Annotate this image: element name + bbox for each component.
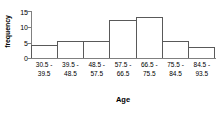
x-axis-tick-labels: 30.5 -39.539.5 -48.548.5 -57.557.5 -66.5… (31, 61, 215, 89)
histogram-bar (136, 17, 163, 58)
histogram-bar (57, 41, 84, 58)
x-axis-tick-label-line1: 30.5 - (31, 61, 57, 70)
y-axis-tick-label: 15 (14, 9, 28, 16)
y-axis-tick-label: 0 (14, 55, 28, 62)
x-axis-tick-label-line2: 57.5 (84, 70, 110, 79)
y-axis-title-text: frequency (4, 15, 11, 48)
x-axis-tick-label-line1: 48.5 - (84, 61, 110, 70)
x-axis-tick-label-line2: 75.5 (136, 70, 162, 79)
x-axis-tick-label: 84.5 -93.5 (189, 61, 215, 89)
histogram-chart: frequency 15 10 5 0 30.5 -39.539.5 -48.5… (0, 0, 222, 117)
x-axis-tick-label: 57.5 -66.5 (110, 61, 136, 89)
x-axis-tick-label-line1: 84.5 - (189, 61, 215, 70)
x-axis-tick-label: 75.5 -84.5 (162, 61, 188, 89)
x-axis-tick-label-line1: 66.5 - (136, 61, 162, 70)
y-axis-tick-label: 10 (14, 24, 28, 31)
x-axis-tick-label: 66.5 -75.5 (136, 61, 162, 89)
x-axis-tick-label-line2: 93.5 (189, 70, 215, 79)
x-axis-tick-label-line2: 48.5 (57, 70, 83, 79)
x-axis-tick-label: 30.5 -39.5 (31, 61, 57, 89)
histogram-bar (31, 45, 58, 58)
x-axis-tick-label-line1: 75.5 - (162, 61, 188, 70)
x-axis-line (31, 58, 216, 59)
histogram-bar (109, 20, 136, 58)
x-axis-tick-label-line1: 39.5 - (57, 61, 83, 70)
x-axis-title: Age (31, 95, 215, 104)
y-axis-tick-label: 5 (14, 40, 28, 47)
histogram-bar (162, 41, 189, 58)
histogram-bars (31, 11, 215, 58)
histogram-bar (83, 41, 110, 58)
x-axis-tick-label: 48.5 -57.5 (84, 61, 110, 89)
x-axis-tick-label-line1: 57.5 - (110, 61, 136, 70)
x-axis-tick-label-line2: 84.5 (162, 70, 188, 79)
x-axis-tick-label: 39.5 -48.5 (57, 61, 83, 89)
x-axis-tick-label-line2: 39.5 (31, 70, 57, 79)
y-axis-tick-labels: 15 10 5 0 (12, 0, 28, 62)
x-axis-tick-label-line2: 66.5 (110, 70, 136, 79)
histogram-bar (188, 47, 215, 58)
